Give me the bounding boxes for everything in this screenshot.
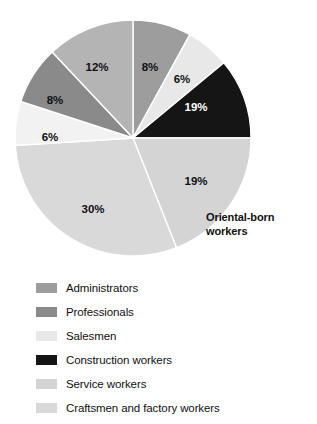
pie-slice-value-label: 6% (42, 131, 59, 143)
legend-swatch-icon (36, 331, 57, 341)
legend-item-label: Administrators (66, 282, 138, 294)
legend-swatch-icon (36, 403, 57, 413)
pie-slice-value-label: 8% (47, 94, 64, 106)
legend-item[interactable]: Craftsmen and factory workers (0, 396, 317, 420)
legend-item[interactable]: Construction workers (0, 348, 317, 372)
legend-item[interactable]: Administrators (0, 276, 317, 300)
legend-swatch-icon (36, 355, 57, 365)
oriental-born-workers-annotation: Oriental-born workers (206, 211, 317, 238)
legend-item-label: Construction workers (66, 354, 172, 366)
pie-slice-value-label: 19% (184, 101, 207, 113)
legend-swatch-icon (36, 379, 57, 389)
legend-item[interactable]: Salesmen (0, 324, 317, 348)
legend-swatch-icon (36, 307, 57, 317)
pie-slice-value-label: 30% (81, 203, 104, 215)
legend-item[interactable]: Professionals (0, 300, 317, 324)
legend-item[interactable]: Service workers (0, 372, 317, 396)
pie-slice-value-label: 6% (174, 73, 191, 85)
legend-swatch-icon (36, 283, 57, 293)
pie-chart-area: 8%6%19%19%30%6%8%12% Oriental-born worke… (0, 0, 317, 272)
legend-item-label: Professionals (66, 306, 134, 318)
pie-slice-value-label: 19% (184, 175, 207, 187)
legend-item-label: Craftsmen and factory workers (66, 402, 220, 414)
chart-legend: AdministratorsProfessionalsSalesmenConst… (0, 276, 317, 424)
legend-item-label: Service workers (66, 378, 146, 390)
pie-slice-value-label: 8% (142, 61, 159, 73)
pie-slice-value-label: 12% (85, 61, 108, 73)
legend-item-label: Salesmen (66, 330, 116, 342)
